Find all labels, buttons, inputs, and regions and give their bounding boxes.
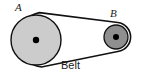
pulley-a-group xyxy=(11,15,61,65)
pulley-b-group xyxy=(104,25,128,49)
pulley-a-label: A xyxy=(15,2,22,13)
pulley-b-hub-dot xyxy=(113,34,119,40)
belt-pulley-figure: A B Belt xyxy=(0,0,141,73)
pulley-b-label: B xyxy=(110,8,117,19)
pulley-a-hub-dot xyxy=(33,37,39,43)
belt-label: Belt xyxy=(61,60,80,71)
